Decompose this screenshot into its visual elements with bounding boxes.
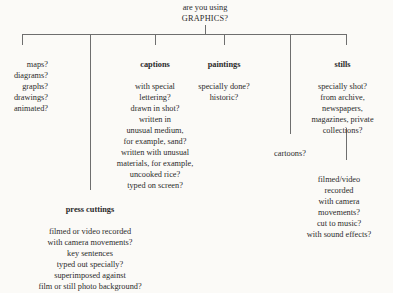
connector-drop-maps xyxy=(22,34,23,45)
connector-drop-paintings xyxy=(224,34,225,45)
node-press-cuttings-items: filmed or video recorded with camera mov… xyxy=(8,226,172,292)
graphics-decision-tree: are you using GRAPHICS? maps? diagrams? … xyxy=(0,0,393,293)
root-node: are you using GRAPHICS? xyxy=(150,2,260,24)
node-maps-items: maps? diagrams? graphs? drawings? animat… xyxy=(0,59,48,114)
connector-root-stem xyxy=(205,25,206,34)
connector-drop-captions xyxy=(155,34,156,45)
node-stills: stills specially shot? from archive, new… xyxy=(292,48,393,147)
node-maps: maps? diagrams? graphs? drawings? animat… xyxy=(0,48,48,125)
node-filmed-video: filmed/video recorded with camera moveme… xyxy=(285,163,393,251)
connector-main-bus xyxy=(22,34,346,35)
node-stills-items: specially shot? from archive, newspapers… xyxy=(292,81,393,136)
node-paintings-items: specially done? historic? xyxy=(186,81,262,103)
connector-drop-cartoons xyxy=(290,34,291,134)
node-cartoons-items: cartoons? xyxy=(256,148,324,159)
node-press-cuttings: press cuttings filmed or video recorded … xyxy=(8,193,172,293)
connector-drop-stills xyxy=(346,34,347,45)
node-filmed-video-items: filmed/video recorded with camera moveme… xyxy=(285,174,393,240)
root-title-line-2: GRAPHICS? xyxy=(182,14,229,23)
root-title-line-1: are you using xyxy=(183,3,228,12)
node-stills-heading: stills xyxy=(292,59,393,70)
node-press-cuttings-heading: press cuttings xyxy=(8,204,172,215)
node-paintings: paintings specially done? historic? xyxy=(186,48,262,114)
node-paintings-heading: paintings xyxy=(186,59,262,70)
